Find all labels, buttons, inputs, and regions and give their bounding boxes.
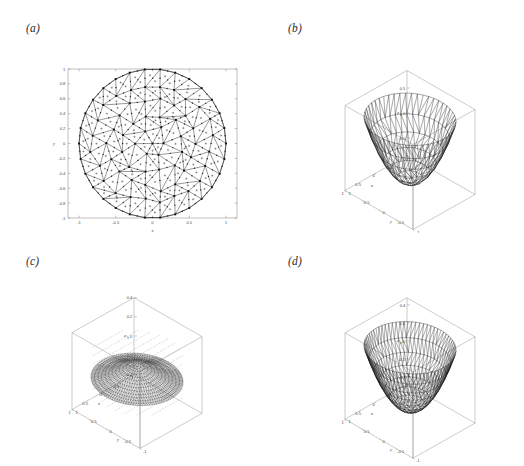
axis-tick-label: 1: [75, 410, 78, 415]
surface-mesh: [91, 353, 183, 405]
z-axis-label: e: [124, 333, 126, 338]
y-axis-label: y: [389, 447, 393, 452]
z-axis-label-subscript: h: [400, 341, 402, 345]
axis-tick-label: 1: [348, 191, 351, 196]
axis-tick-label: -1: [77, 220, 81, 225]
axis-tick-label: -0.4: [58, 171, 66, 176]
axis-tick-label: -0.5: [397, 220, 405, 225]
x-axis-label: x: [370, 411, 373, 416]
axis-tick-label: -1: [416, 458, 420, 463]
y-tick: [413, 230, 415, 232]
panel-c: (c) 0.40.20-0.2-0.4eh-1-0.500.51x10.50-0…: [0, 233, 262, 466]
axis-tick-label: 0.5: [364, 429, 370, 434]
axis-tick-label: 0: [382, 210, 385, 215]
axis-tick-label: -0.6: [58, 186, 66, 191]
y-axis-label: y: [389, 219, 393, 224]
axis-tick-label: 0: [130, 334, 133, 339]
axis-tick-label: 0.5: [91, 419, 97, 424]
x-axis-label: x: [370, 183, 373, 188]
panel-c-plot: 0.40.20-0.2-0.4eh-1-0.500.51x10.50-0.5-1…: [0, 233, 262, 466]
mesh-vertices: [78, 68, 227, 218]
axis-tick-label: -0.5: [124, 439, 132, 444]
x-axis-label: x: [150, 228, 153, 233]
axis-tick-label: 0.4: [127, 295, 133, 300]
axis-tick-label: -1: [62, 216, 66, 221]
axis-tick-label: 1: [225, 220, 228, 225]
axis-tick-label: 0.5: [82, 401, 88, 406]
axis-tick-label: 1: [348, 419, 351, 424]
panel-d-plot: 0.40.20-0.2-0.4eh-1-0.500.51x10.50-0.5-1…: [262, 233, 524, 466]
axis-tick-label: 0.4: [400, 303, 406, 308]
panel-b-plot: 0.50-0.5eh-1-0.500.51x10.50-0.5-1y: [262, 0, 524, 233]
axis-tick-label: -0.5: [397, 449, 405, 454]
figure-container: (a) -1-0.500.5110.80.60.40.20-0.2-0.4-0.…: [0, 0, 524, 466]
panel-a: (a) -1-0.500.5110.80.60.40.20-0.2-0.4-0.…: [0, 0, 262, 233]
surface-mesh: [364, 322, 456, 414]
panel-b: (b) 0.50-0.5eh-1-0.500.51x10.50-0.5-1y: [262, 0, 524, 233]
axis-tick-label: 0.4: [60, 111, 66, 116]
axis-tick-label: 0.5: [355, 411, 361, 416]
axis-tick-label: 0: [109, 429, 112, 434]
axis-tick-label: 0.2: [127, 314, 133, 319]
axis-tick-label: -0.5: [112, 220, 120, 225]
axis-tick-label: 0.5: [400, 86, 406, 91]
axis-tick-label: 0.2: [400, 321, 406, 326]
y-axis-label: y: [116, 437, 120, 442]
axis-tick-label: -1: [143, 449, 147, 454]
axis-tick-label: 0.2: [60, 126, 66, 131]
axis-tick-label: 0.5: [355, 182, 361, 187]
y-tick: [140, 448, 142, 450]
axis-tick-label: 0.6: [60, 96, 66, 101]
x-axis-label: x: [97, 401, 100, 406]
panel-d: (d) 0.40.20-0.2-0.4eh-1-0.500.51x10.50-0…: [262, 233, 524, 466]
axis-tick-label: 1: [63, 67, 66, 72]
axis-tick-label: 0.8: [60, 81, 66, 86]
axis-tick-label: -0.8: [58, 201, 66, 206]
axis-tick-label: 0: [151, 220, 154, 225]
axis-tick-label: 0: [403, 111, 406, 116]
y-tick: [413, 458, 415, 460]
axis-tick-label: 0: [382, 439, 385, 444]
y-axis-label: y: [52, 141, 56, 146]
axis-tick-label: 0.5: [186, 220, 192, 225]
axis-tick-label: -0.2: [58, 156, 66, 161]
axis-tick-label: 0: [63, 141, 66, 146]
panel-a-plot: -1-0.500.5110.80.60.40.20-0.2-0.4-0.6-0.…: [0, 0, 262, 233]
axis-tick-label: 0.5: [364, 200, 370, 205]
